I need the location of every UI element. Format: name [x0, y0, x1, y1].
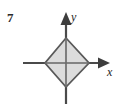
math-figure: 7 y x — [0, 0, 122, 104]
coordinate-plane-svg — [0, 0, 122, 104]
problem-number-label: 7 — [7, 11, 14, 25]
y-axis-arrow-icon — [61, 12, 72, 25]
x-axis-label: x — [107, 66, 112, 78]
y-axis-label: y — [71, 11, 76, 23]
